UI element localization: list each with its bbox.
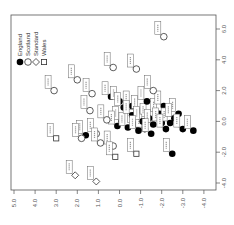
point-label-box [81,96,87,109]
y-tick-label: 2.0 [221,86,227,95]
x-tick-label: -3.0 [180,197,186,208]
point-label-box [92,128,98,141]
point-label-box [163,139,169,152]
data-point [144,76,156,94]
point-label-box [87,166,93,179]
data-point [104,53,116,71]
standard-marker-icon [72,172,79,179]
standard-marker-icon [33,59,40,66]
data-point [155,22,167,40]
legend-label: Standard [33,32,39,56]
england-marker-icon [17,59,24,66]
point-label-box [83,79,89,92]
data-point [45,76,57,94]
legend-label: Wales [41,40,47,56]
point-label-box [138,86,144,99]
point-label-box [98,105,104,118]
data-point [138,86,150,104]
point-label-box [106,142,112,155]
data-point [68,65,80,83]
scotland-marker-icon [25,59,32,66]
x-tick-label: -2.0 [159,197,165,208]
x-tick-label: 5.0 [11,198,17,207]
england-marker-icon [144,98,151,105]
wales-marker-icon [54,136,59,141]
scotland-marker-icon [104,117,111,124]
scotland-marker-icon [161,33,168,40]
england-marker-icon [169,150,176,157]
point-label-box [127,54,133,67]
point-label-box [102,82,108,95]
scotland-marker-icon [150,87,157,94]
point-label-box [142,119,148,132]
y-tick-label: 0.0 [221,117,227,126]
point-label-box [115,93,121,106]
scotland-marker-icon [97,140,104,147]
legend-label: Scotland [25,33,31,56]
x-tick-label: 2.0 [74,198,80,207]
point-label-box [45,76,51,89]
point-label-box [68,65,74,78]
data-point [127,139,139,157]
x-tick-label: 4.0 [32,198,38,207]
x-tick-label: 0.0 [117,198,123,207]
x-tick-label: -1.0 [138,197,144,208]
data-point [81,96,93,114]
point-label-box [119,113,125,126]
y-tick-label: 4.0 [221,55,227,64]
x-tick-label: 1.0 [95,198,101,207]
scotland-marker-icon [133,66,140,73]
data-point [163,139,175,157]
wales-marker-icon [41,59,46,64]
data-point [47,123,59,141]
point-label-box [174,114,180,127]
point-label-box [66,160,72,173]
point-label-box [184,116,190,129]
england-marker-icon [150,121,157,128]
scotland-marker-icon [89,90,96,97]
wales-marker-icon [113,154,118,159]
scotland-marker-icon [87,107,94,114]
legend-label: England [17,34,23,56]
standard-marker-icon [93,178,100,185]
england-marker-icon [148,130,155,137]
england-marker-icon [190,127,197,134]
data-point [83,79,95,97]
y-tick-label: 6.0 [221,24,227,33]
england-marker-icon [163,126,170,133]
point-label-box [144,76,150,89]
point-label-box [165,103,171,116]
y-tick-label: -2.0 [221,146,227,157]
data-point [127,54,139,72]
data-point [92,128,104,146]
point-label-box [47,123,53,136]
point-label-box [129,116,135,129]
scotland-marker-icon [110,64,117,71]
scotland-marker-icon [74,77,81,84]
chart-svg: 5.04.03.02.01.00.0-1.0-2.0-3.0-4.06.04.0… [0,0,234,225]
data-point [87,166,100,185]
wales-marker-icon [134,151,139,156]
point-label-box [157,114,163,127]
x-tick-label: 3.0 [53,198,59,207]
x-tick-label: -4.0 [201,197,207,208]
point-label-box [73,123,79,136]
scotland-marker-icon [51,87,58,94]
point-label-box [127,139,133,152]
point-label-box [123,100,129,113]
data-point [184,116,196,134]
point-label-box [104,53,110,66]
scotland-marker-icon [78,135,85,142]
england-marker-icon [135,127,142,134]
data-point [66,160,79,179]
point-label-box [155,22,161,35]
y-tick-label: -4.0 [221,177,227,188]
legend: EnglandScotlandStandardWales [17,32,47,66]
dialect-scatter-plot: 5.04.03.02.01.00.0-1.0-2.0-3.0-4.06.04.0… [0,0,234,225]
